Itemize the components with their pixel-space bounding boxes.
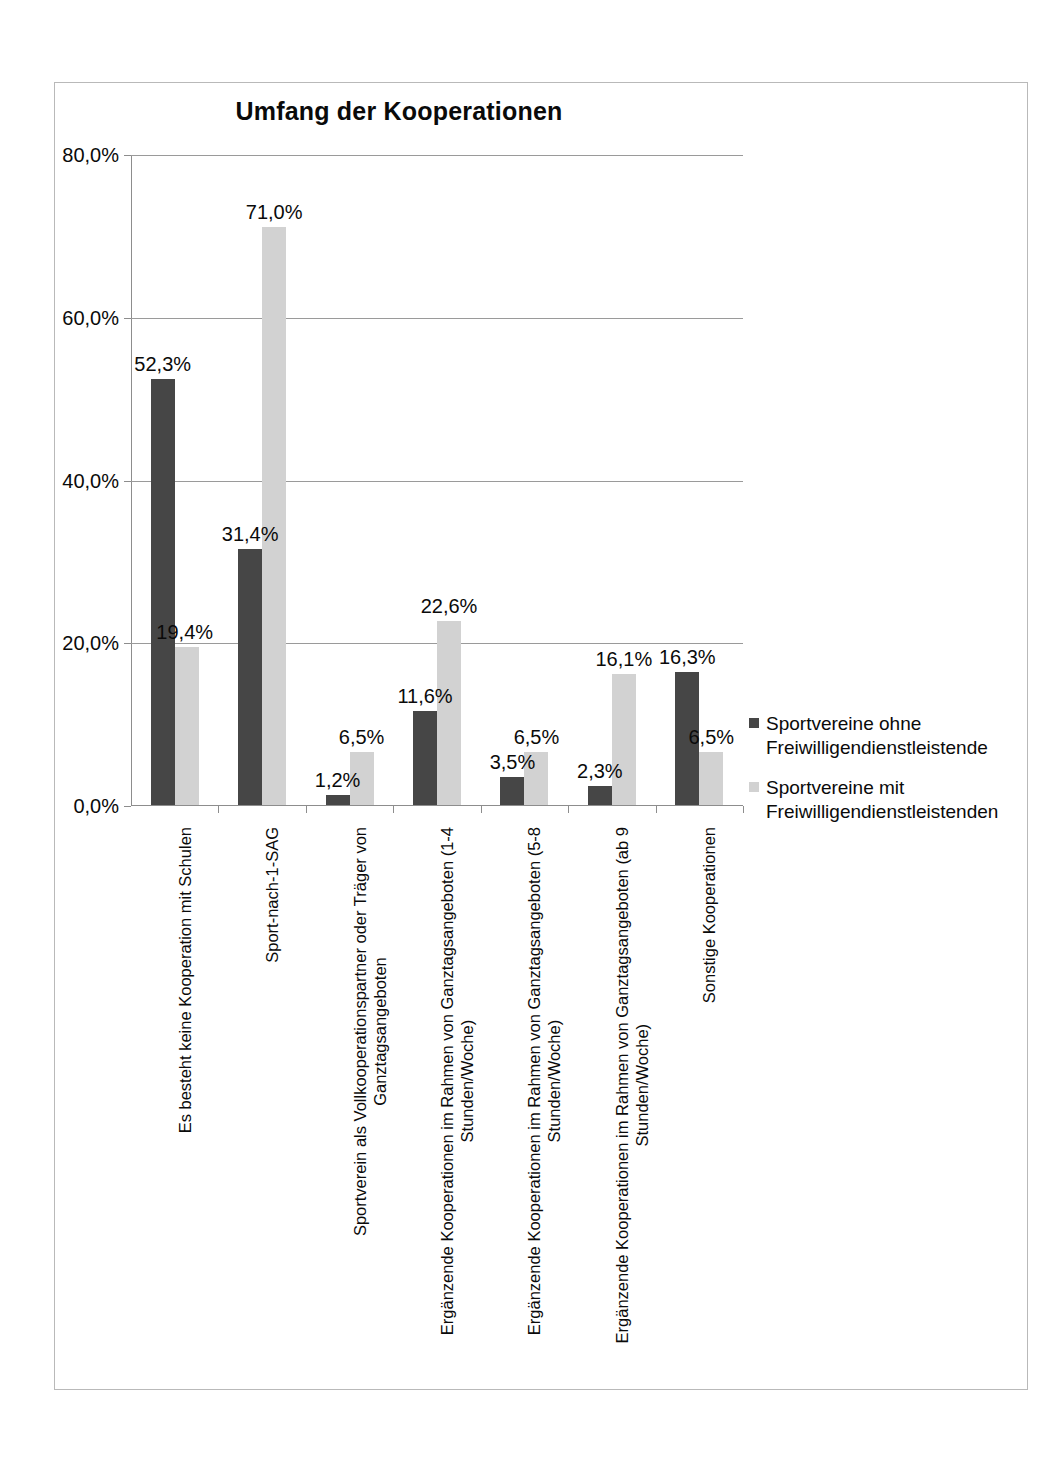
bar[interactable] bbox=[437, 621, 461, 805]
bar-value-label: 3,5% bbox=[490, 751, 536, 774]
bar[interactable] bbox=[238, 549, 262, 805]
bar-value-label: 31,4% bbox=[222, 523, 279, 546]
bar-value-label: 6,5% bbox=[339, 726, 385, 749]
y-tick-label: 40,0% bbox=[62, 469, 119, 492]
bar-value-label: 16,1% bbox=[595, 648, 652, 671]
x-axis-line bbox=[131, 805, 743, 806]
x-axis-category-label: Es besteht keine Kooperation mit Schulen bbox=[175, 827, 195, 1133]
x-tick-mark bbox=[306, 806, 307, 813]
chart-frame: Umfang der Kooperationen 80,0%60,0%40,0%… bbox=[54, 82, 1028, 1390]
y-tick-label: 20,0% bbox=[62, 632, 119, 655]
bar-value-label: 16,3% bbox=[659, 646, 716, 669]
gridline bbox=[131, 155, 743, 156]
gridline bbox=[131, 318, 743, 319]
chart-legend: Sportvereine ohneFreiwilligendienstleist… bbox=[749, 712, 1019, 840]
bar[interactable] bbox=[500, 777, 524, 805]
category-label-line: Sport-nach-1-SAG bbox=[263, 827, 281, 963]
bar-value-label: 19,4% bbox=[156, 621, 213, 644]
category-label-line: Sonstige Kooperationen bbox=[700, 827, 718, 1003]
bar-value-label: 52,3% bbox=[134, 353, 191, 376]
bar[interactable] bbox=[413, 711, 437, 805]
category-label-line: Ergänzende Kooperationen im Rahmen von G… bbox=[613, 827, 631, 1343]
bar[interactable] bbox=[262, 227, 286, 805]
category-label-line: Ergänzende Kooperationen im Rahmen von G… bbox=[525, 827, 543, 1335]
y-tick-mark bbox=[124, 155, 131, 156]
x-tick-mark bbox=[481, 806, 482, 813]
category-label-line: Stunden/Woche) bbox=[457, 827, 477, 1335]
legend-item[interactable]: Sportvereine mitFreiwilligendienstleiste… bbox=[749, 776, 1019, 824]
plot-area: 80,0%60,0%40,0%20,0%0,0% 52,3%19,4%31,4%… bbox=[131, 155, 743, 806]
legend-swatch-icon bbox=[749, 782, 759, 792]
y-tick-mark bbox=[124, 806, 131, 807]
y-tick-mark bbox=[124, 318, 131, 319]
bar-value-label: 2,3% bbox=[577, 760, 623, 783]
legend-swatch-icon bbox=[749, 718, 759, 728]
x-axis-category-label: Sportverein als Vollkooperationspartner … bbox=[350, 827, 390, 1236]
chart-title: Umfang der Kooperationen bbox=[55, 97, 743, 126]
category-label-line: Ganztagsangeboten bbox=[370, 827, 390, 1236]
x-tick-mark bbox=[218, 806, 219, 813]
x-axis-category-label: Ergänzende Kooperationen im Rahmen von G… bbox=[524, 827, 564, 1335]
y-tick-label: 60,0% bbox=[62, 306, 119, 329]
y-tick-label: 0,0% bbox=[73, 795, 119, 818]
x-axis-category-label: Ergänzende Kooperationen im Rahmen von G… bbox=[612, 827, 652, 1343]
category-label-line: Stunden/Woche) bbox=[632, 827, 652, 1343]
y-tick-mark bbox=[124, 643, 131, 644]
x-tick-mark bbox=[656, 806, 657, 813]
bar-value-label: 71,0% bbox=[246, 201, 303, 224]
bar[interactable] bbox=[326, 795, 350, 805]
bar[interactable] bbox=[175, 647, 199, 805]
bar[interactable] bbox=[151, 379, 175, 805]
bar-value-label: 6,5% bbox=[514, 726, 560, 749]
bar-value-label: 22,6% bbox=[421, 595, 478, 618]
legend-label: Sportvereine ohneFreiwilligendienstleist… bbox=[766, 712, 988, 760]
x-axis-category-label: Sport-nach-1-SAG bbox=[262, 827, 282, 963]
y-tick-mark bbox=[124, 481, 131, 482]
x-axis-category-label: Sonstige Kooperationen bbox=[699, 827, 719, 1003]
y-tick-label: 80,0% bbox=[62, 144, 119, 167]
bar-value-label: 11,6% bbox=[397, 685, 452, 708]
bar[interactable] bbox=[612, 674, 636, 805]
x-tick-mark bbox=[743, 806, 744, 813]
category-label-line: Sportverein als Vollkooperationspartner … bbox=[351, 827, 369, 1236]
bar[interactable] bbox=[699, 752, 723, 805]
x-tick-mark bbox=[568, 806, 569, 813]
legend-label: Sportvereine mitFreiwilligendienstleiste… bbox=[766, 776, 998, 824]
bar[interactable] bbox=[588, 786, 612, 805]
category-label-line: Es besteht keine Kooperation mit Schulen bbox=[176, 827, 194, 1133]
bar-value-label: 1,2% bbox=[315, 769, 361, 792]
bar-value-label: 6,5% bbox=[688, 726, 734, 749]
x-tick-mark bbox=[393, 806, 394, 813]
category-label-line: Stunden/Woche) bbox=[544, 827, 564, 1335]
x-axis-category-label: Ergänzende Kooperationen im Rahmen von G… bbox=[437, 827, 477, 1335]
category-label-line: Ergänzende Kooperationen im Rahmen von G… bbox=[438, 827, 456, 1335]
gridline bbox=[131, 481, 743, 482]
legend-item[interactable]: Sportvereine ohneFreiwilligendienstleist… bbox=[749, 712, 1019, 760]
